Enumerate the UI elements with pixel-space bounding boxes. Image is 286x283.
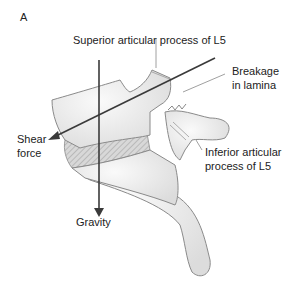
label-gravity: Gravity	[76, 216, 111, 228]
panel-label: A	[20, 11, 27, 23]
label-shear-line1: Shear	[17, 133, 46, 145]
shear-arrowhead-icon	[48, 131, 60, 140]
label-inferior-line2: process of L5	[205, 160, 271, 172]
label-shear-line2: force	[17, 147, 41, 159]
label-breakage-line2: in lamina	[232, 79, 276, 91]
label-breakage-line1: Breakage	[232, 65, 279, 77]
leader-breakage	[183, 74, 225, 92]
label-superior-articular-process: Superior articular process of L5	[73, 34, 226, 46]
lamina-breakage	[168, 104, 186, 110]
leader-inferior	[196, 140, 202, 150]
label-inferior-line1: Inferior articular	[205, 146, 281, 158]
